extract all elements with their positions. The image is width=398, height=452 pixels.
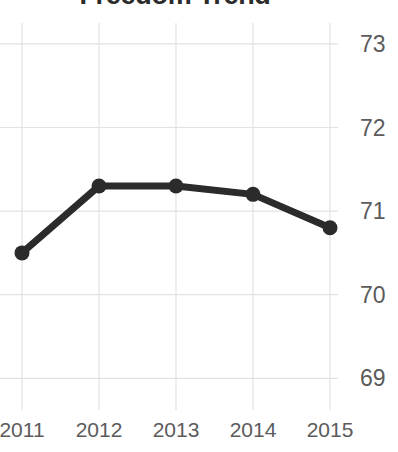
data-point-marker xyxy=(246,187,261,202)
line-chart: Freedom Trend 6970717273 201120122013201… xyxy=(0,0,398,452)
data-point-marker xyxy=(15,245,30,260)
x-axis-tick-label: 2011 xyxy=(0,419,45,440)
data-point-marker xyxy=(169,179,184,194)
x-axis-tick-label: 2015 xyxy=(307,419,354,440)
y-axis-tick-label: 69 xyxy=(360,367,386,390)
data-point-marker xyxy=(92,179,107,194)
x-axis-tick-label: 2014 xyxy=(230,419,277,440)
y-axis-tick-label: 70 xyxy=(360,283,386,306)
y-axis-tick-label: 73 xyxy=(360,32,386,55)
x-axis-tick-label: 2012 xyxy=(76,419,123,440)
y-axis-tick-label: 72 xyxy=(360,116,386,139)
y-axis-tick-label: 71 xyxy=(360,200,386,223)
data-point-marker xyxy=(323,220,338,235)
plot-area xyxy=(0,0,350,410)
x-axis-tick-label: 2013 xyxy=(153,419,200,440)
plot-svg xyxy=(0,0,350,410)
